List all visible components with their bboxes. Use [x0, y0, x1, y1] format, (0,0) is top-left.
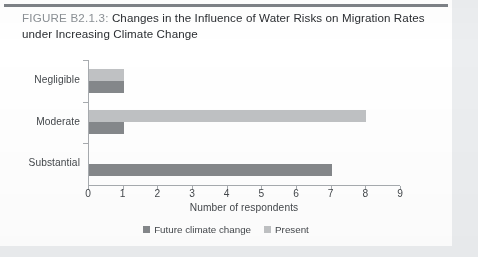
figure-panel: FIGURE B2.1.3: Changes in the Influence … — [0, 0, 452, 246]
bar-group — [89, 143, 400, 185]
legend-swatch-icon — [264, 226, 271, 233]
legend-label: Future climate change — [154, 224, 251, 235]
bar-present — [89, 110, 366, 122]
chart-legend: Future climate changePresent — [0, 224, 452, 235]
y-axis-category-labels: NegligibleModerateSubstantial — [0, 60, 80, 185]
bar-future — [89, 164, 332, 176]
legend-item[interactable]: Present — [264, 224, 309, 235]
y-axis-tick — [83, 102, 88, 103]
figure-caption: FIGURE B2.1.3: Changes in the Influence … — [22, 10, 434, 41]
x-axis-tick-label: 5 — [258, 188, 264, 199]
x-axis-tick-label: 6 — [293, 188, 299, 199]
x-axis-tick-label: 8 — [362, 188, 368, 199]
bar-future — [89, 81, 124, 93]
plot-area — [88, 60, 400, 185]
x-axis-tick-label: 1 — [120, 188, 126, 199]
x-axis-tick-label: 9 — [397, 188, 403, 199]
x-axis-tick-label: 4 — [224, 188, 230, 199]
bar-chart: NegligibleModerateSubstantial 0123456789… — [0, 52, 452, 242]
document-page: FIGURE B2.1.3: Changes in the Influence … — [0, 0, 478, 257]
x-axis-title: Number of respondents — [88, 202, 400, 213]
y-axis-category-label: Negligible — [34, 74, 80, 85]
bar-future — [89, 122, 124, 134]
x-axis-line — [88, 185, 400, 186]
bar-present — [89, 69, 124, 81]
x-axis-tick-label: 2 — [154, 188, 160, 199]
y-axis-category-label: Substantial — [28, 157, 80, 168]
x-axis-tick-label: 0 — [85, 188, 91, 199]
x-axis-tick-label: 3 — [189, 188, 195, 199]
y-axis-tick — [83, 60, 88, 61]
y-axis-category-label: Moderate — [36, 116, 80, 127]
legend-swatch-icon — [143, 226, 150, 233]
x-axis-tick-label: 7 — [328, 188, 334, 199]
bar-group — [89, 60, 400, 102]
legend-label: Present — [275, 224, 309, 235]
bar-group — [89, 102, 400, 144]
legend-item[interactable]: Future climate change — [143, 224, 251, 235]
y-axis-tick — [83, 143, 88, 144]
figure-number-label: FIGURE B2.1.3: — [22, 11, 109, 24]
x-axis-tick-labels: 0123456789 — [88, 188, 400, 202]
figure-top-rule — [4, 4, 448, 7]
